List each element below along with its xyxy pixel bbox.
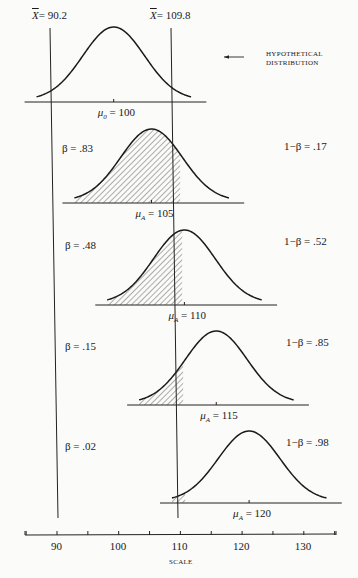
beta-label: β = .02 (65, 440, 96, 452)
power-label: 1−β = .52 (284, 235, 327, 247)
beta-label: β = .48 (65, 239, 96, 251)
power-diagram (0, 0, 358, 578)
power-label: 1−β = .17 (284, 140, 327, 152)
scale-label: SCALE (169, 558, 193, 567)
arrow-head-icon (224, 55, 229, 59)
beta-shaded-region (107, 230, 182, 305)
normal-curve (37, 27, 192, 97)
power-label: 1−β = .98 (286, 436, 329, 448)
beta-shaded-region (74, 129, 180, 203)
mean-label: μA = 120 (233, 507, 271, 524)
scale-tick-label: 130 (295, 540, 312, 552)
mean-label: μA = 105 (136, 207, 174, 224)
mean-label: μA = 110 (168, 309, 206, 326)
mean-label: μA = 115 (200, 409, 238, 426)
critical-value-upper-label: X= 109.8 (150, 9, 190, 21)
beta-label: β = .83 (62, 142, 93, 154)
critical-value-lower-label: X= 90.2 (32, 9, 67, 21)
distribution-curves (25, 27, 342, 503)
scale-tick-label: 120 (233, 540, 250, 552)
scale-axis (25, 531, 336, 535)
scale-tick-label: 90 (51, 540, 62, 552)
hypothetical-distribution-label: HYPOTHETICAL DISTRIBUTION (266, 50, 323, 68)
beta-label: β = .15 (65, 340, 96, 352)
power-label: 1−β = .85 (286, 336, 329, 348)
mean-label: μ0 = 100 (98, 106, 135, 123)
scale-tick-label: 110 (171, 540, 187, 552)
scale-tick-label: 100 (110, 540, 127, 552)
